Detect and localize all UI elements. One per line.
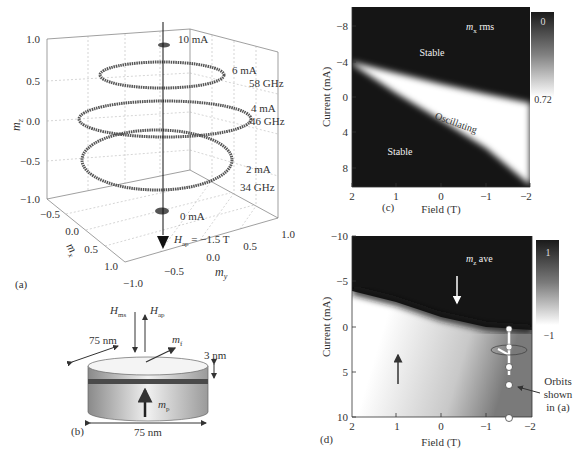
panel-d-heatmap: −10 −5 0 5 10 2 1 0 −1 −2 Field (T) Curr… [320,230,573,449]
panel-a-z-ticks: 1.0 0.5 0.0 −0.5 −1.0 [20,33,40,205]
tick-label: 1.0 [26,33,40,45]
panel-c-y-label: Current (mA) [320,67,333,128]
colorbar-label-bottom: −1 [544,330,555,341]
panel-a-x-ticks: −0.5 0.0 0.5 1.0 [40,208,118,272]
annotation-line: shown [544,388,573,400]
panel-a-x-label: mx [62,241,82,260]
panel-d-x-ticks: 2 1 0 −1 −2 [349,420,536,432]
tick-label: −1.0 [20,193,40,205]
tick-label: 0 [343,91,349,103]
label-diameter: 75 nm [89,334,117,346]
tick-label: −2 [524,420,536,432]
colorbar-label-top: 0 [541,16,546,27]
figure-canvas: 1.0 0.5 0.0 −0.5 −1.0 mz −0.5 0.0 0.5 1.… [0,0,579,467]
tick-label: 0 [438,190,444,202]
label-thickness: 3 nm [204,349,227,361]
orbit-2ma [82,130,232,190]
orbit-freq: 34 GHz [240,181,275,193]
pillar-top [88,357,208,375]
panel-label-a: (a) [15,278,28,291]
label-hap: Hap [149,304,165,319]
orbit-label: 2 mA [246,163,271,175]
tick-label: −5 [336,275,348,287]
tick-label: −8 [336,20,348,32]
orbit-label: 0 mA [180,210,205,222]
panel-a-z-label: mz [9,118,25,131]
panel-c-heatmap: −8 −4 0 4 8 2 1 0 −1 −2 Field (T) Curren… [320,7,554,216]
tick-label: 0.0 [206,251,220,263]
tick-label: 0.5 [243,240,257,252]
tick-label: 10 [337,411,349,423]
tick-label: 0 [438,420,444,432]
panel-c-x-label: Field (T) [421,203,461,216]
panel-a-3d-plot: 1.0 0.5 0.0 −0.5 −1.0 mz −0.5 0.0 0.5 1.… [9,22,295,291]
annotation-line: Orbits [544,375,572,387]
orbit-freq: 58 GHz [249,77,284,89]
panel-a-orbit-labels: 10 mA 6 mA 58 GHz 4 mA 46 GHz 2 mA 34 GH… [178,33,285,222]
tick-label: 0.0 [65,225,79,237]
orbit-point [506,326,512,332]
tick-label: 0 [343,321,349,333]
panel-label-b: (b) [71,425,84,438]
orbit-point [506,344,512,350]
tick-label: −4 [336,56,348,68]
label-mf: mf [172,333,183,348]
tick-label: 0.5 [84,243,98,255]
tick-label: 1.0 [281,228,295,240]
tick-label: 4 [343,126,349,138]
spacer-layer [88,379,208,384]
panel-a-y-label: my [215,265,228,281]
orbit-point [506,364,513,371]
tick-label: −0.5 [164,265,184,277]
label-hms: Hms [109,304,126,319]
panel-label-d: (d) [320,433,333,446]
tick-label: −1 [480,420,492,432]
panel-d-y-ticks: −10 −5 0 5 10 [331,230,349,423]
panel-d-x-label: Field (T) [421,436,461,449]
panel-c-y-ticks: −8 −4 0 4 8 [336,20,348,174]
tick-label: 8 [343,162,349,174]
tick-label: −2 [520,190,532,202]
region-label-stable: Stable [388,146,414,157]
tick-label: 0.0 [26,115,40,127]
orbit-label: 6 mA [232,64,257,76]
orbit-point [506,382,513,389]
tick-label: 0.5 [26,75,40,87]
colorbar-label-top: 1 [546,247,551,258]
panel-d-orbits-annotation: Orbits shown in (a) [544,375,573,414]
panel-label-c: (c) [382,201,395,214]
panel-c-x-ticks: 2 1 0 −1 −2 [349,190,532,202]
panel-a-orbits [79,43,251,215]
orbit-label: 4 mA [251,102,276,114]
tick-label: −0.5 [40,208,60,220]
tick-label: −10 [331,230,349,242]
tick-label: 2 [349,190,355,202]
arrow-down-icon [157,236,169,249]
orbit-4ma [79,101,251,137]
tick-label: −1.0 [123,277,143,289]
orbit-6ma [100,62,224,88]
orbit-label: 10 mA [178,33,208,45]
tick-label: −1 [480,190,492,202]
tick-label: −0.5 [20,155,40,167]
label-width: 75 nm [134,426,162,438]
colorbar-label-bottom: 0.72 [534,94,552,105]
panel-d-y-label: Current (mA) [320,297,333,358]
panel-a-field-label: Hap = −1.5 T [173,233,230,248]
tick-label: 1 [394,420,400,432]
tick-label: 2 [349,420,355,432]
orbit-10ma [158,43,170,48]
tick-label: 5 [343,366,349,378]
region-label-stable: Stable [420,47,446,58]
orbit-0ma [155,208,169,215]
panel-b-device-diagram: Hms Hap mf mp 75 nm 75 nm 3 nm (b) [71,304,227,438]
figure: 1.0 0.5 0.0 −0.5 −1.0 mz −0.5 0.0 0.5 1.… [0,0,579,467]
annotation-line: in (a) [546,401,570,414]
orbit-point [506,415,513,422]
tick-label: 1.0 [104,260,118,272]
orbit-freq: 46 GHz [250,115,285,127]
